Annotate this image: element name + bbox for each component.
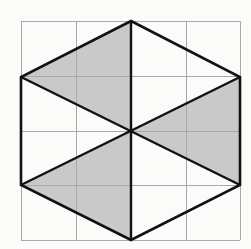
figure-container (0, 0, 251, 249)
hexagon-grid-figure (0, 0, 251, 249)
